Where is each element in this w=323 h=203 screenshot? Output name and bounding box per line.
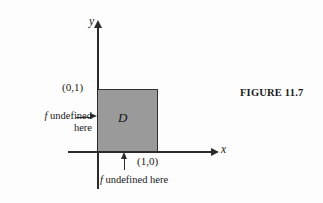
figure-container: x y D (0,1) (1,0) f undefined here f und…: [0, 0, 323, 203]
x-axis-arrow-icon: [211, 148, 219, 156]
y-axis-arrow-icon: [94, 20, 102, 28]
region-label-d: D: [118, 111, 127, 124]
shaded-region-d: [98, 89, 158, 151]
annotation-left-line1: undefined: [47, 110, 92, 121]
figure-caption: FIGURE 11.7: [240, 88, 303, 99]
point-label-top-left: (0,1): [62, 82, 83, 93]
x-axis-line: [68, 151, 214, 153]
annotation-left-arrow-shaft: [76, 117, 91, 118]
annotation-bottom-arrow-shaft: [124, 157, 125, 170]
annotation-left-arrow-icon: [90, 113, 97, 119]
annotation-bottom-text: f undefined here: [74, 174, 194, 186]
x-axis-label: x: [221, 144, 226, 156]
annotation-left-text: f undefined here: [10, 110, 92, 134]
annotation-bottom-body: undefined here: [103, 174, 168, 185]
y-axis-label: y: [89, 16, 94, 28]
point-label-bottom-right: (1,0): [137, 156, 158, 167]
annotation-left-line2: here: [10, 122, 92, 134]
